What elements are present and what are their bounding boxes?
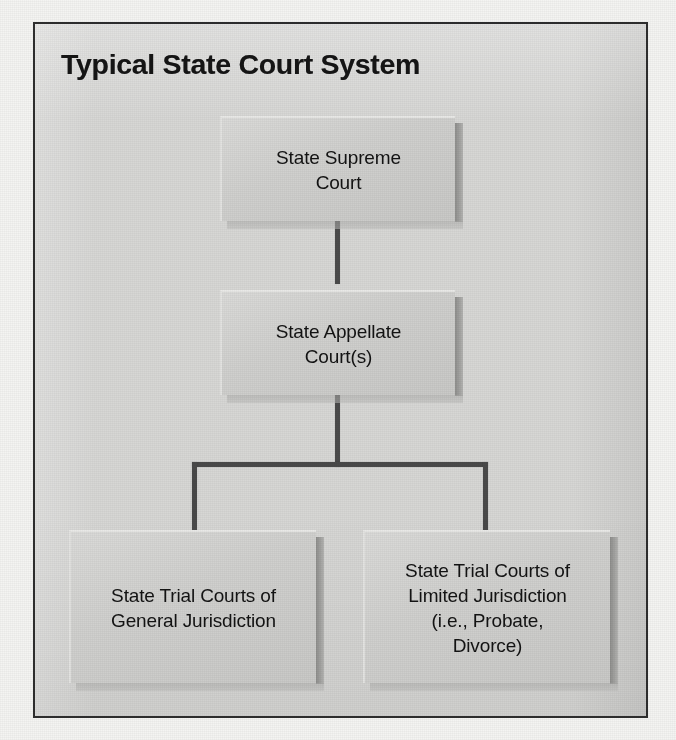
diagram-frame: Typical State Court System State Supreme… xyxy=(33,22,648,718)
node-face: State Appellate Court(s) xyxy=(220,290,455,395)
node-shadow-bottom xyxy=(370,683,618,691)
node-state-appellate-court[interactable]: State Appellate Court(s) xyxy=(220,290,455,395)
node-face: State Trial Courts of General Jurisdicti… xyxy=(69,530,316,683)
connector-horizontal-bus xyxy=(192,462,488,467)
connector-bus-to-limited xyxy=(483,462,488,530)
node-state-supreme-court[interactable]: State Supreme Court xyxy=(220,116,455,221)
node-face: State Trial Courts of Limited Jurisdicti… xyxy=(363,530,610,683)
node-shadow-right xyxy=(316,537,324,684)
node-shadow-right xyxy=(610,537,618,684)
node-label: State Appellate Court(s) xyxy=(270,319,408,369)
node-label: State Supreme Court xyxy=(270,145,407,195)
node-state-trial-courts-limited[interactable]: State Trial Courts of Limited Jurisdicti… xyxy=(363,530,610,683)
connector-bus-to-general xyxy=(192,462,197,530)
node-shadow-bottom xyxy=(227,395,463,403)
connector-supreme-to-appellate xyxy=(335,221,340,284)
node-shadow-right xyxy=(455,123,463,222)
page-title: Typical State Court System xyxy=(61,48,420,81)
node-shadow-bottom xyxy=(76,683,324,691)
node-label: State Trial Courts of General Jurisdicti… xyxy=(105,583,282,633)
scanned-page: One of the oldest forms of the trial by … xyxy=(0,0,676,740)
node-shadow-bottom xyxy=(227,221,463,229)
node-label: State Trial Courts of Limited Jurisdicti… xyxy=(399,558,576,658)
node-face: State Supreme Court xyxy=(220,116,455,221)
node-shadow-right xyxy=(455,297,463,396)
connector-appellate-stem xyxy=(335,395,340,467)
node-state-trial-courts-general[interactable]: State Trial Courts of General Jurisdicti… xyxy=(69,530,316,683)
